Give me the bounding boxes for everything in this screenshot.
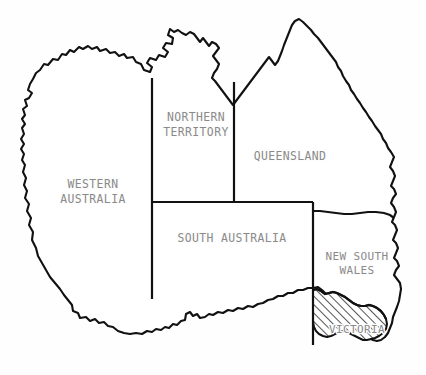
label-south-australia-line1: SOUTH AUSTRALIA — [178, 231, 287, 245]
label-new-south-wales-line1: NEW SOUTH — [325, 250, 388, 263]
state-label-queensland: QUEENSLAND — [254, 149, 327, 163]
label-new-south-wales-line2: WALES — [339, 264, 374, 277]
label-queensland-line1: QUEENSLAND — [254, 149, 327, 163]
australia-map-svg: WESTERN AUSTRALIA NORTHERN TERRITORY QUE… — [0, 0, 426, 375]
state-label-victoria: VICTORIA — [329, 323, 385, 336]
label-northern-territory-line1: NORTHERN — [167, 110, 225, 124]
label-victoria-line1: VICTORIA — [329, 323, 385, 336]
australia-map: WESTERN AUSTRALIA NORTHERN TERRITORY QUE… — [0, 0, 426, 375]
label-northern-territory-line2: TERRITORY — [163, 125, 228, 139]
state-label-northern-territory: NORTHERN TERRITORY — [163, 110, 228, 139]
state-label-western-australia: WESTERN AUSTRALIA — [60, 177, 125, 206]
label-western-australia-line2: AUSTRALIA — [60, 192, 125, 206]
label-western-australia-line1: WESTERN — [68, 177, 119, 191]
state-label-south-australia: SOUTH AUSTRALIA — [178, 231, 287, 245]
